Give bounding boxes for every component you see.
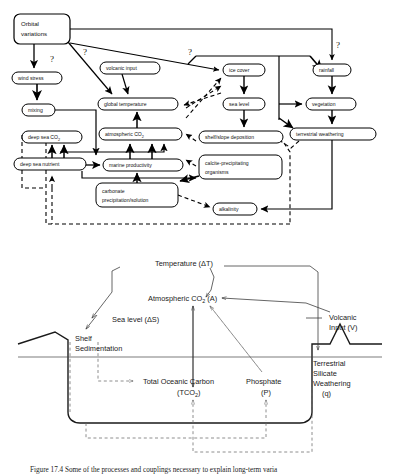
label-temperature: Temperature (ΔT) <box>155 259 213 268</box>
edge-dashed-right-return <box>284 143 290 224</box>
question-mark-2: ? <box>83 47 87 57</box>
node-orbital-variations[interactable]: Orbital variations <box>14 14 70 44</box>
node-volcanic-input[interactable]: volcanic input <box>100 62 160 74</box>
node-mixing-label: mixing <box>28 107 43 113</box>
top-diagram-nodes: Orbital variations wind stress mixing de… <box>12 14 376 215</box>
figure-caption: Figure 17.4 Some of the processes and co… <box>30 466 278 474</box>
node-vegetation-label: vegetation <box>312 101 336 107</box>
node-sea-level-label: sea level <box>229 101 249 107</box>
edge-top-bus-left-turn <box>188 56 196 64</box>
node-terrestrial-weathering[interactable]: terrestrial weathering <box>290 128 376 140</box>
edge-dashed-temp-to-ice-cover-2 <box>186 86 221 108</box>
node-deep-sea-nutrient[interactable]: deep sea nutrient <box>14 158 86 170</box>
top-diagram-connectors <box>34 29 332 209</box>
edge-dashed-to-atmospheric-co2-right <box>186 134 196 141</box>
label-atmospheric-co2-post: (A) <box>205 294 217 303</box>
edge-dashed-carbonate-to-alkalinity <box>178 195 210 207</box>
node-marine-productivity[interactable]: marine productivity <box>103 159 183 171</box>
edge-orbital-to-rainfall <box>70 29 332 60</box>
dash-loop-weathering-return <box>193 380 312 452</box>
node-vegetation[interactable]: vegetation <box>306 98 356 110</box>
question-mark-4: ? <box>336 40 340 50</box>
left-land-slope <box>18 332 68 352</box>
figure-container: Orbital variations wind stress mixing de… <box>0 0 395 474</box>
node-sea-level[interactable]: sea level <box>223 98 265 110</box>
edge-spine-to-terrestrial-weathering <box>279 118 293 128</box>
edge-dashed-weathering-hook <box>279 140 299 148</box>
node-alkalinity[interactable]: alkalinity <box>213 203 257 215</box>
node-deep-sea-nutrient-label: deep sea nutrient <box>20 161 60 167</box>
node-carbonate-label-1: carbonate <box>102 188 125 194</box>
label-phosphate-symbol: (P) <box>261 388 271 397</box>
node-ice-cover-label: ice cover <box>229 67 250 73</box>
node-orbital-variations-label-2: variations <box>21 30 47 37</box>
top-diagram-uncertainty-marks: ? ? ? ? <box>50 40 340 64</box>
edge-dashed-ice-cover-to-global-temperature <box>184 93 221 105</box>
node-shelf-slope-deposition-label: shelf/slope deposition <box>205 134 254 140</box>
label-tco2-post: ) <box>198 388 200 397</box>
node-deep-sea-co2-label: deep sea CO <box>28 134 58 140</box>
edge-deep-sea-co2-loop <box>60 144 164 152</box>
label-atmospheric-co2-pre: Atmospheric CO <box>148 294 202 303</box>
node-wind-stress-label: wind stress <box>18 75 44 81</box>
edge-temperature-to-sea-level <box>92 267 120 318</box>
figure-caption-text: Figure 17.4 Some of the processes and co… <box>30 466 278 474</box>
node-carbonate-label-2: precipitation/solution <box>102 197 149 203</box>
node-rainfall-label: rainfall <box>319 67 334 73</box>
label-phosphate: Phosphate <box>246 377 281 386</box>
node-mixing[interactable]: mixing <box>22 104 55 116</box>
edge-temperature-right-bus <box>224 266 318 288</box>
label-volcanic-input-2: Input (V) <box>329 323 357 332</box>
label-tco2-pre: (TCO <box>177 388 195 397</box>
node-atmospheric-co2-sub: 2 <box>142 135 144 139</box>
label-shelf-sedimentation-1: Shelf <box>75 334 93 343</box>
node-atmospheric-co2[interactable]: atmospheric CO2 <box>99 128 182 140</box>
node-ice-cover[interactable]: ice cover <box>223 64 265 76</box>
node-marine-productivity-label: marine productivity <box>109 162 152 168</box>
node-alkalinity-label: alkalinity <box>219 206 239 212</box>
node-wind-stress[interactable]: wind stress <box>12 72 62 84</box>
node-orbital-variations-label-1: Orbital <box>21 20 39 27</box>
node-deep-sea-co2-sub: 2 <box>58 138 60 142</box>
question-mark-1: ? <box>50 54 54 64</box>
bottom-diagram: Temperature (ΔT) Atmospheric CO2 (A) Sea… <box>18 259 382 452</box>
node-calcite-organisms[interactable]: calcite-precipitating organisms <box>199 155 282 179</box>
question-mark-3: ? <box>188 47 192 57</box>
node-rainfall[interactable]: rainfall <box>313 64 351 76</box>
edge-volcanic-input-to-global-temperature <box>122 74 128 94</box>
node-shelf-slope-deposition[interactable]: shelf/slope deposition <box>199 131 283 143</box>
svg-text:Atmospheric CO2 (A): Atmospheric CO2 (A) <box>148 294 217 304</box>
label-sea-level: Sea level (ΔS) <box>112 315 159 324</box>
node-global-temperature[interactable]: global temperature <box>98 98 178 110</box>
node-volcanic-input-label: volcanic input <box>106 65 137 71</box>
edge-sea-level-to-shelf <box>86 315 97 329</box>
label-total-oceanic-carbon: Total Oceanic Carbon <box>143 377 214 386</box>
edge-dashed-temp-to-ice-cover-1 <box>186 78 221 118</box>
edge-to-calcite-organisms <box>82 171 196 178</box>
edge-dashed-to-marine-productivity-right <box>186 160 196 166</box>
node-carbonate-precipitation[interactable]: carbonate precipitation/solution <box>96 183 178 207</box>
node-terrestrial-weathering-label: terrestrial weathering <box>296 131 344 137</box>
label-terrestrial-silicate-weathering-3: Weathering <box>313 379 351 388</box>
label-terrestrial-silicate-weathering-4: (q) <box>322 389 331 398</box>
node-deep-sea-co2[interactable]: deep sea CO2 <box>22 131 82 143</box>
bottom-solid-connectors <box>86 266 330 387</box>
svg-text:(TCO2): (TCO2) <box>177 388 201 398</box>
node-calcite-organisms-label-1: calcite-precipitating <box>205 160 249 166</box>
label-shelf-sedimentation-2: Sedimentation <box>75 344 122 353</box>
edge-volcanic-input-to-atmospheric-co2 <box>222 298 330 312</box>
node-global-temperature-label: global temperature <box>104 101 147 107</box>
node-calcite-organisms-label-2: organisms <box>205 169 229 175</box>
label-terrestrial-silicate-weathering-2: Silicate <box>313 369 337 378</box>
figure-svg: Orbital variations wind stress mixing de… <box>0 0 395 474</box>
label-terrestrial-silicate-weathering-1: Terrestrial <box>313 359 346 368</box>
label-volcanic-input-1: Volcanic <box>329 313 357 322</box>
edge-temperature-to-atmospheric-co2 <box>206 268 214 297</box>
bottom-diagram-labels: Temperature (ΔT) Atmospheric CO2 (A) Sea… <box>75 259 357 398</box>
node-atmospheric-co2-label: atmospheric CO <box>105 131 142 137</box>
